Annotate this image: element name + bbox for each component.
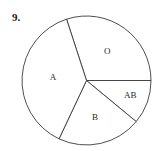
slice-label-a: A [50,72,57,82]
slice-label-b: B [92,112,98,122]
slice-label-o: O [104,46,111,56]
pie-slices [22,16,151,145]
pie-chart: OABBA [0,0,160,151]
slice-label-ab: AB [124,90,137,100]
